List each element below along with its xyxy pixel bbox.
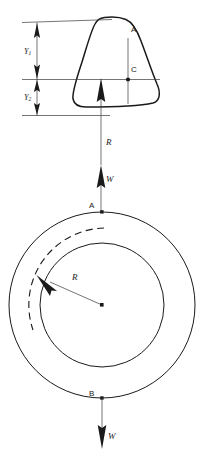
dimension-label-y2: Y2 xyxy=(24,93,31,102)
weight-upper-label: W xyxy=(106,174,115,184)
reaction-force-arrowhead xyxy=(97,78,106,102)
dimension-y2-subscript: 2 xyxy=(28,96,31,102)
ring-center-marker xyxy=(100,303,104,307)
point-a-marker xyxy=(100,210,103,213)
weight-lower-arrowhead xyxy=(98,425,107,449)
radius-label: R xyxy=(71,272,78,282)
weight-upper-arrowhead xyxy=(97,165,106,188)
point-b-label: B xyxy=(89,389,94,398)
dimension-label-y1: Y1 xyxy=(24,47,31,56)
figure-root: Y1 Y2 C A R W R A xyxy=(0,0,203,466)
dashed-arc-arrowhead xyxy=(37,275,58,296)
body-label-a: A xyxy=(131,25,137,34)
statics-diagram: Y1 Y2 C A R W R A xyxy=(0,0,203,466)
body-outline-shape xyxy=(73,17,159,107)
dimension-y1-subscript: 1 xyxy=(28,50,31,56)
extension-line-top xyxy=(22,20,112,23)
centroid-marker-dot xyxy=(126,77,130,81)
radius-line xyxy=(50,282,102,305)
point-a-label: A xyxy=(89,201,95,210)
weight-lower-label: W xyxy=(108,431,117,441)
reaction-force-label: R xyxy=(105,137,112,147)
centroid-label: C xyxy=(131,65,137,74)
